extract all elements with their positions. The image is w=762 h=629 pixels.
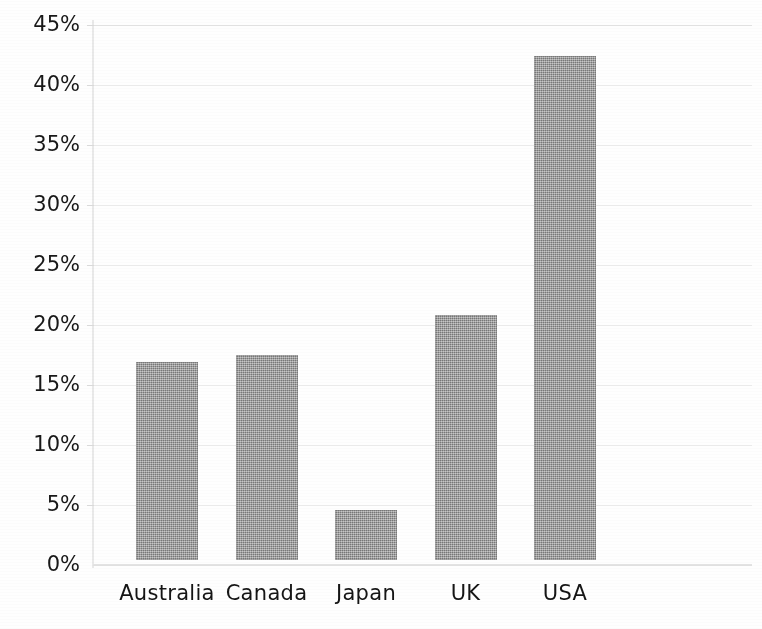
- bar-canada[interactable]: [236, 355, 298, 560]
- bar-japan[interactable]: [335, 510, 397, 560]
- gridline-40: [93, 85, 752, 86]
- gridline-25: [93, 265, 752, 266]
- y-tick-35: [87, 145, 94, 146]
- y-axis-label: 35%: [0, 134, 80, 155]
- y-axis-label: 0%: [0, 554, 80, 575]
- y-tick-25: [87, 265, 94, 266]
- gridline-30: [93, 205, 752, 206]
- y-axis-label: 15%: [0, 374, 80, 395]
- y-tick-5: [87, 505, 94, 506]
- y-axis-label: 25%: [0, 254, 80, 275]
- gridline-35: [93, 145, 752, 146]
- y-axis-label: 20%: [0, 314, 80, 335]
- y-tick-20: [87, 325, 94, 326]
- bar-chart: 45%40%35%30%25%20%15%10%5%0% AustraliaCa…: [0, 0, 762, 629]
- y-axis-label: 40%: [0, 74, 80, 95]
- y-tick-45: [87, 25, 94, 26]
- x-axis-label-usa: USA: [485, 583, 645, 604]
- y-axis-label: 5%: [0, 494, 80, 515]
- bar-usa[interactable]: [534, 56, 596, 560]
- y-tick-15: [87, 385, 94, 386]
- y-axis-label: 10%: [0, 434, 80, 455]
- y-tick-10: [87, 445, 94, 446]
- gridline-20: [93, 325, 752, 326]
- bar-australia[interactable]: [136, 362, 198, 560]
- y-axis-label: 45%: [0, 14, 80, 35]
- gridline-45: [93, 25, 752, 26]
- y-tick-30: [87, 205, 94, 206]
- y-tick-40: [87, 85, 94, 86]
- bar-uk[interactable]: [435, 315, 497, 560]
- y-axis-label: 30%: [0, 194, 80, 215]
